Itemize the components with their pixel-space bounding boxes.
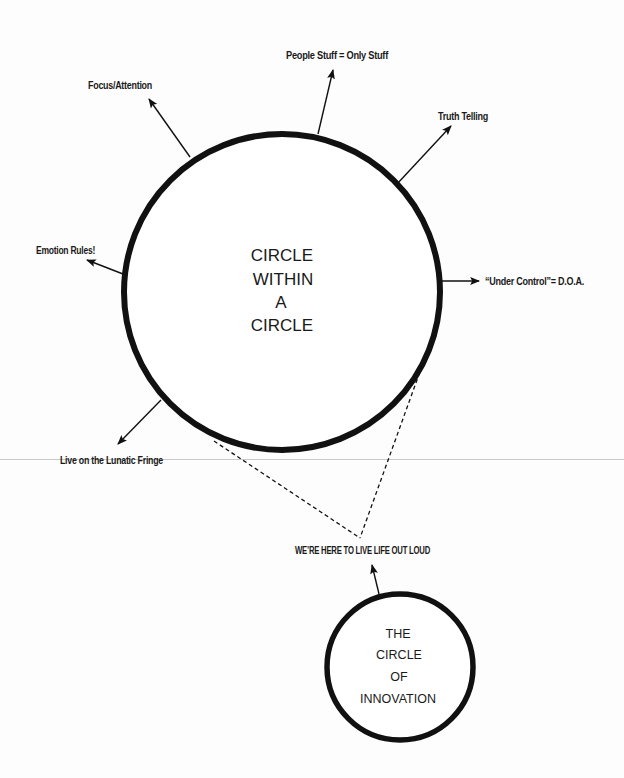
- main-circle-text-line-4: CIRCLE: [251, 316, 313, 335]
- label-focus-attention: Focus/Attention: [88, 79, 152, 91]
- small-circle: THE CIRCLE OF INNOVATION: [327, 594, 473, 740]
- label-people-stuff: People Stuff = Only Stuff: [286, 49, 389, 61]
- arrow-truth: [397, 126, 451, 184]
- arrow-people: [318, 70, 333, 134]
- main-circle-text-line-3: A: [275, 293, 287, 312]
- small-circle-text-line-2: CIRCLE: [376, 648, 422, 662]
- main-circle: CIRCLE WITHIN A CIRCLE: [124, 134, 440, 450]
- label-truth-telling: Truth Telling: [438, 110, 488, 122]
- main-circle-ring: [124, 134, 440, 450]
- arrow-focus: [149, 99, 190, 157]
- circle-within-a-circle-diagram: CIRCLE WITHIN A CIRCLE Focus/Attention P…: [0, 0, 624, 778]
- label-emotion-rules: Emotion Rules!: [36, 244, 95, 256]
- arrow-innovation-up: [372, 565, 379, 594]
- dashed-line-left: [214, 441, 360, 538]
- small-circle-text-line-3: OF: [390, 670, 408, 684]
- arrow-fringe: [118, 400, 161, 444]
- label-lunatic-fringe: Live on the Lunatic Fringe: [60, 454, 163, 466]
- arrow-emotion: [87, 260, 123, 274]
- label-under-control: “Under Control”= D.O.A.: [485, 275, 584, 287]
- small-circle-text-line-1: THE: [386, 627, 411, 641]
- main-circle-text-line-2: WITHIN: [253, 270, 313, 289]
- main-circle-text-line-1: CIRCLE: [251, 246, 313, 265]
- small-circle-ring: [327, 594, 473, 740]
- small-circle-text-line-4: INNOVATION: [360, 692, 436, 706]
- label-live-life-out-loud: WE’RE HERE TO LIVE LIFE OUT LOUD: [295, 544, 431, 556]
